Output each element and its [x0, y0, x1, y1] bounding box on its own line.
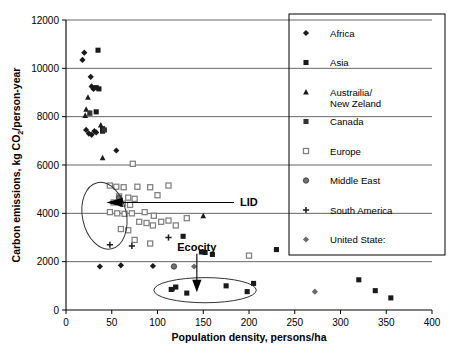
x-tick-label: 250	[286, 317, 303, 328]
legend-item-3[interactable]: Canada	[303, 116, 364, 127]
scatter-chart: 050100150200250300350400 020004000600080…	[0, 0, 450, 358]
y-axis-title: Carbon emissions, kg CO2/person-year	[10, 68, 25, 263]
lid-arrowhead	[106, 198, 122, 207]
legend-marker-filled-diamond	[303, 30, 309, 36]
data-point	[135, 184, 140, 189]
data-point	[130, 161, 135, 166]
y-tick-label: 10000	[31, 63, 59, 74]
x-axis-title: Population density, persons/ha	[172, 331, 327, 343]
legend-marker-gray-circle	[303, 178, 308, 183]
ecocity-annotation-label: Ecocity	[177, 241, 217, 253]
data-point	[356, 277, 361, 282]
legend-label: Middle East	[330, 175, 380, 186]
data-point	[171, 264, 176, 269]
data-point	[373, 288, 378, 293]
series-0	[79, 50, 156, 270]
legend-item-5[interactable]: Middle East	[303, 175, 380, 186]
data-point	[173, 223, 178, 228]
gridlines-group	[66, 20, 432, 262]
y-tick-label: 8000	[37, 111, 60, 122]
data-point	[129, 211, 134, 216]
data-point	[81, 50, 87, 56]
legend-marker-filled-square	[303, 119, 308, 124]
ecocity-arrowhead	[192, 280, 201, 293]
legend-border	[289, 14, 445, 255]
legend-marker-filled-triangle	[303, 89, 309, 95]
data-point	[121, 185, 126, 190]
x-tick-label: 50	[106, 317, 118, 328]
x-tick-label: 200	[241, 317, 258, 328]
data-point	[98, 122, 104, 128]
data-point	[148, 241, 153, 246]
x-tick-group: 050100150200250300350400	[63, 310, 441, 328]
legend-item-6[interactable]: South America	[303, 205, 393, 216]
data-point	[191, 263, 197, 269]
data-point	[148, 185, 153, 190]
data-point	[151, 213, 156, 218]
y-tick-group: 020004000600080001000012000	[31, 15, 66, 316]
data-point	[159, 219, 164, 224]
x-tick-label: 400	[424, 317, 441, 328]
legend-marker-filled-square	[303, 60, 308, 65]
y-tick-label: 0	[53, 305, 59, 316]
legend-label-line2: New Zeland	[330, 98, 381, 109]
data-point	[245, 289, 250, 294]
data-point	[118, 226, 123, 231]
data-point	[246, 253, 251, 258]
data-point	[132, 196, 137, 201]
legend-label: Asia	[330, 57, 349, 68]
data-point	[312, 289, 318, 295]
data-point	[137, 219, 142, 224]
y-tick-label: 6000	[37, 160, 60, 171]
legend-item-4[interactable]: Europe	[303, 146, 360, 157]
data-point	[388, 295, 393, 300]
data-point	[166, 183, 171, 188]
legend-item-7[interactable]: United State:	[303, 234, 386, 245]
data-point	[96, 86, 101, 91]
series-2	[82, 94, 206, 218]
y-tick-label: 12000	[31, 15, 59, 26]
data-point	[150, 263, 156, 269]
legend-item-0[interactable]: Africa	[303, 28, 355, 39]
legend-item-2[interactable]: Austrailia/New Zeland	[303, 87, 381, 110]
legend-label: Austrailia/	[330, 87, 372, 98]
data-point	[88, 74, 94, 80]
data-point	[128, 202, 133, 207]
legend-label: South America	[330, 205, 393, 216]
data-point	[115, 211, 120, 216]
data-point	[85, 94, 91, 100]
highlight-ellipses-group	[76, 178, 256, 303]
legend-marker-open-square	[303, 148, 308, 153]
data-point	[155, 193, 160, 198]
data-point	[224, 283, 229, 288]
data-point	[107, 210, 112, 215]
legend-item-1[interactable]: Asia	[303, 57, 349, 68]
data-point	[166, 218, 171, 223]
x-tick-label: 300	[332, 317, 349, 328]
x-tick-label: 350	[378, 317, 395, 328]
legend-marker-gray-diamond	[303, 236, 309, 242]
plot-svg: 050100150200250300350400 020004000600080…	[0, 0, 450, 358]
data-point	[142, 210, 147, 215]
data-point	[95, 48, 100, 53]
data-point	[107, 242, 113, 248]
lid-annotation-label: LID	[240, 196, 258, 208]
data-point	[144, 220, 149, 225]
data-point	[274, 247, 279, 252]
data-point	[126, 195, 131, 200]
legend-label: United State:	[330, 234, 385, 245]
data-point	[102, 127, 107, 132]
x-tick-label: 0	[63, 317, 69, 328]
y-tick-label: 2000	[37, 256, 60, 267]
data-point	[132, 237, 137, 242]
legend-label: Europe	[330, 146, 361, 157]
data-point	[97, 263, 103, 269]
x-tick-label: 150	[195, 317, 212, 328]
x-tick-label: 100	[149, 317, 166, 328]
legend-label: Canada	[330, 116, 364, 127]
data-point	[100, 155, 106, 161]
data-point	[165, 234, 171, 240]
data-point	[184, 216, 189, 221]
legend-label: Africa	[330, 28, 355, 39]
data-point	[129, 243, 135, 249]
